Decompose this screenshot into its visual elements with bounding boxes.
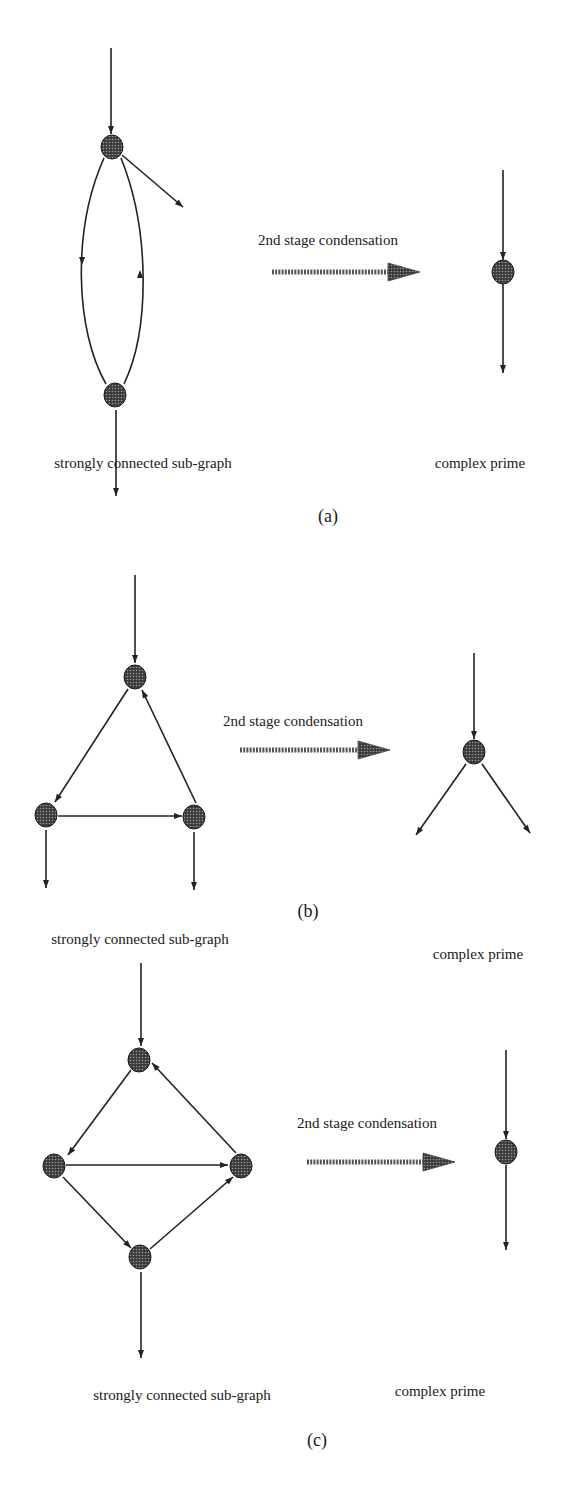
panel-a-graph (79, 48, 514, 496)
condensation-arrow (307, 1153, 455, 1171)
condensation-arrow (240, 741, 390, 759)
graph-node (230, 1154, 252, 1178)
graph-node (463, 740, 485, 764)
arrowhead-icon (471, 731, 477, 739)
graph-edge (81, 158, 106, 384)
arrowhead-icon (52, 794, 61, 804)
condensation-arrowhead-icon (423, 1153, 455, 1171)
arrowhead-icon (113, 488, 119, 496)
arrowhead-icon (500, 365, 506, 373)
arrowhead-icon (139, 689, 148, 699)
arrowhead-icon (138, 1038, 144, 1046)
graph-edge (63, 1177, 131, 1248)
arrowhead-icon (500, 252, 506, 260)
graph-node (104, 383, 126, 407)
panel-b: 2nd stage condensation strongly connecte… (35, 575, 532, 962)
graph-node (129, 1245, 151, 1269)
graph-node (492, 260, 514, 284)
arrowhead-icon (108, 126, 114, 134)
complex-prime-label: complex prime (435, 455, 526, 471)
panel-caption: (b) (298, 901, 319, 922)
graph-edge (152, 1063, 236, 1153)
panel-b-graph (35, 575, 532, 890)
graph-edge (122, 155, 183, 207)
panel-caption: (c) (307, 1430, 327, 1451)
transform-label: 2nd stage condensation (258, 232, 398, 248)
graph-edge (482, 764, 530, 833)
subgraph-label: strongly connected sub-graph (54, 455, 232, 471)
graph-node (495, 1140, 517, 1164)
arrowhead-icon (132, 655, 138, 663)
graph-node (128, 1048, 150, 1072)
complex-prime-label: complex prime (395, 1383, 486, 1399)
subgraph-label: strongly connected sub-graph (93, 1387, 271, 1403)
graph-node (124, 665, 146, 689)
arrowhead-icon (79, 257, 85, 265)
condensation-arrow (272, 263, 420, 281)
arrowhead-icon (138, 1350, 144, 1358)
graph-node (43, 1154, 65, 1178)
subgraph-label: strongly connected sub-graph (51, 931, 229, 947)
graph-edge (68, 1070, 131, 1155)
graph-edge (150, 1177, 233, 1249)
condensation-arrowhead-icon (388, 263, 420, 281)
complex-prime-label: complex prime (433, 946, 524, 962)
graph-edge (416, 764, 466, 835)
arrowhead-icon (220, 1162, 228, 1168)
figure-canvas: 2nd stage condensation strongly connecte… (0, 0, 575, 1503)
panel-caption: (a) (318, 506, 338, 527)
panel-c: 2nd stage condensation strongly connecte… (43, 963, 517, 1451)
arrowhead-icon (503, 1131, 509, 1139)
arrowhead-icon (191, 882, 197, 890)
transform-label: 2nd stage condensation (297, 1115, 437, 1131)
graph-node (183, 805, 205, 829)
graph-node (101, 135, 123, 159)
arrowhead-icon (43, 880, 49, 888)
graph-node (35, 803, 57, 827)
condensation-arrowhead-icon (358, 741, 390, 759)
graph-edge (142, 690, 196, 803)
panel-a: 2nd stage condensation strongly connecte… (54, 48, 525, 527)
arrowhead-icon (503, 1242, 509, 1250)
graph-edge (55, 689, 128, 802)
arrowhead-icon (174, 813, 182, 819)
arrowhead-icon (137, 270, 143, 278)
transform-label: 2nd stage condensation (223, 713, 363, 729)
